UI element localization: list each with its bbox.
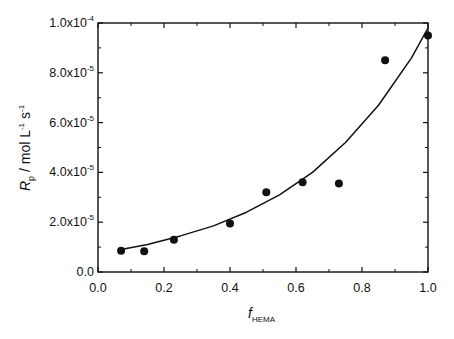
- y-tick-label: 4.0x10-5: [49, 163, 94, 179]
- x-tick-label: 0.8: [353, 281, 370, 295]
- x-tick-label: 0.2: [155, 281, 172, 295]
- data-point: [262, 188, 270, 196]
- data-point: [381, 56, 389, 64]
- y-axis-title: Rp / mol L-1 s-1: [17, 104, 36, 191]
- x-tick-label: 0.4: [221, 281, 238, 295]
- chart: 0.00.20.40.60.81.0 0.02.0x10-54.0x10-56.…: [0, 0, 454, 339]
- y-tick-label: 8.0x10-5: [49, 64, 94, 80]
- x-tick-label: 1.0: [419, 281, 436, 295]
- y-tick-labels: 0.02.0x10-54.0x10-56.0x10-58.0x10-51.0x1…: [49, 14, 94, 279]
- data-point: [299, 178, 307, 186]
- x-axis-title: fHEMA: [248, 305, 276, 324]
- plot-area-border: [98, 23, 428, 272]
- y-tick-label: 0.0: [77, 265, 94, 279]
- data-points: [117, 31, 432, 255]
- data-point: [226, 219, 234, 227]
- x-tick-label: 0.6: [287, 281, 304, 295]
- data-point: [117, 247, 125, 255]
- axis-ticks: [98, 23, 428, 272]
- data-point: [170, 236, 178, 244]
- data-point: [424, 31, 432, 39]
- data-point: [335, 180, 343, 188]
- y-tick-label: 1.0x10-4: [49, 14, 94, 30]
- x-tick-label: 0.0: [89, 281, 106, 295]
- y-tick-label: 6.0x10-5: [49, 114, 94, 130]
- data-point: [140, 247, 148, 255]
- plot-frame: [98, 23, 428, 272]
- x-tick-labels: 0.00.20.40.60.81.0: [89, 281, 436, 295]
- y-tick-label: 2.0x10-5: [49, 213, 94, 229]
